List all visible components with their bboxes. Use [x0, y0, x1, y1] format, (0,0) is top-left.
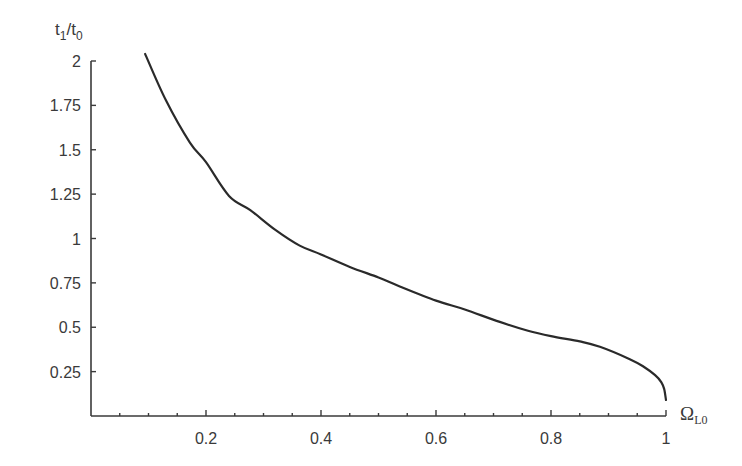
x-tick-label: 0.2: [195, 430, 217, 447]
x-tick-label: 0.6: [425, 430, 447, 447]
x-axis-title: ΩL0: [680, 403, 707, 427]
y-tick-label: 2: [72, 53, 81, 70]
chart: 0.250.50.7511.251.51.752 0.20.40.60.81 t…: [0, 0, 742, 466]
y-tick-label: 1.25: [50, 186, 81, 203]
x-tick-label: 1: [662, 430, 671, 447]
y-tick-label: 1.5: [59, 142, 81, 159]
y-tick-label: 1: [72, 231, 81, 248]
y-axis-ticks: 0.250.50.7511.251.51.752: [50, 53, 96, 381]
y-tick-label: 1.75: [50, 97, 81, 114]
x-tick-label: 0.4: [310, 430, 332, 447]
y-tick-label: 0.25: [50, 364, 81, 381]
data-curve: [145, 54, 666, 400]
x-tick-label: 0.8: [540, 430, 562, 447]
y-tick-label: 0.75: [50, 275, 81, 292]
y-tick-label: 0.5: [59, 319, 81, 336]
y-axis-title: t1/t0: [55, 20, 83, 43]
